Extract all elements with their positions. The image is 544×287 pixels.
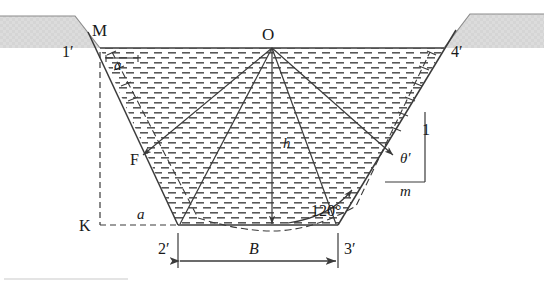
channel-cross-section-diagram: M O 1′ 4′ a F h 1 θ′ m K a 120° 2′ 3′ B — [0, 0, 544, 287]
ground-left — [0, 16, 100, 48]
label-slope-rise: 1 — [422, 121, 430, 138]
label-angle-theta: θ′ — [400, 150, 411, 166]
label-corner-4p: 4′ — [451, 43, 463, 60]
label-point-M: M — [92, 21, 107, 40]
label-freeboard-bottom: a — [137, 206, 145, 222]
label-point-K: K — [79, 217, 91, 234]
label-slope-run: m — [400, 183, 411, 199]
label-corner-3p: 3′ — [344, 240, 356, 257]
label-corner-2p: 2′ — [158, 240, 170, 257]
label-corner-1p: 1′ — [62, 43, 74, 60]
figure-canvas: M O 1′ 4′ a F h 1 θ′ m K a 120° 2′ 3′ B — [0, 0, 544, 287]
label-depth-h: h — [283, 135, 291, 151]
label-point-F: F — [130, 151, 139, 168]
label-bottom-width: B — [249, 240, 259, 257]
label-freeboard-top: a — [114, 57, 122, 73]
label-point-O: O — [262, 25, 274, 44]
label-arc-angle: 120° — [311, 202, 341, 219]
